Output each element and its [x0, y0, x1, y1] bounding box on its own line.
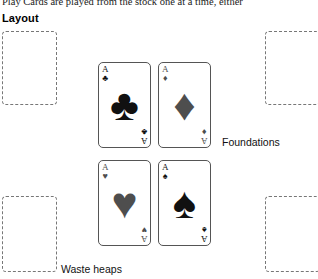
annotation-foundations: Foundations [222, 136, 280, 148]
card-rank: A [141, 234, 148, 243]
card-ace-of-clubs[interactable]: A ♣ ♣ A ♣ [98, 62, 151, 148]
card-index-bottom-right: A ♠ [201, 225, 208, 243]
annotation-waste-heaps: Waste heaps [61, 263, 122, 275]
card-index-bottom-right: A ♣ [141, 127, 148, 145]
card-ace-of-spades[interactable]: A ♠ ♠ A ♠ [158, 160, 211, 246]
diamonds-icon: ♦ [201, 127, 206, 136]
card-rank: A [201, 136, 208, 145]
hearts-icon: ♥ [141, 225, 146, 234]
card-index-bottom-right: A ♥ [141, 225, 148, 243]
clubs-icon: ♣ [141, 127, 147, 136]
empty-pile-bottom-left[interactable] [2, 196, 57, 272]
card-ace-of-hearts[interactable]: A ♥ ♥ A ♥ [98, 160, 151, 246]
card-ace-of-diamonds[interactable]: A ♦ ♦ A ♦ [158, 62, 211, 148]
body-paragraph-clipped: Play Cards are played from the stock one… [2, 0, 302, 8]
spades-icon: ♠ [201, 225, 206, 234]
section-heading-layout: Layout [2, 12, 39, 24]
empty-pile-bottom-right[interactable] [265, 196, 318, 272]
card-index-bottom-right: A ♦ [201, 127, 208, 145]
card-rank: A [201, 234, 208, 243]
layout-figure: Play Cards are played from the stock one… [0, 0, 318, 279]
card-rank: A [141, 136, 148, 145]
empty-pile-top-right[interactable] [265, 31, 318, 105]
empty-pile-top-left[interactable] [2, 31, 57, 105]
